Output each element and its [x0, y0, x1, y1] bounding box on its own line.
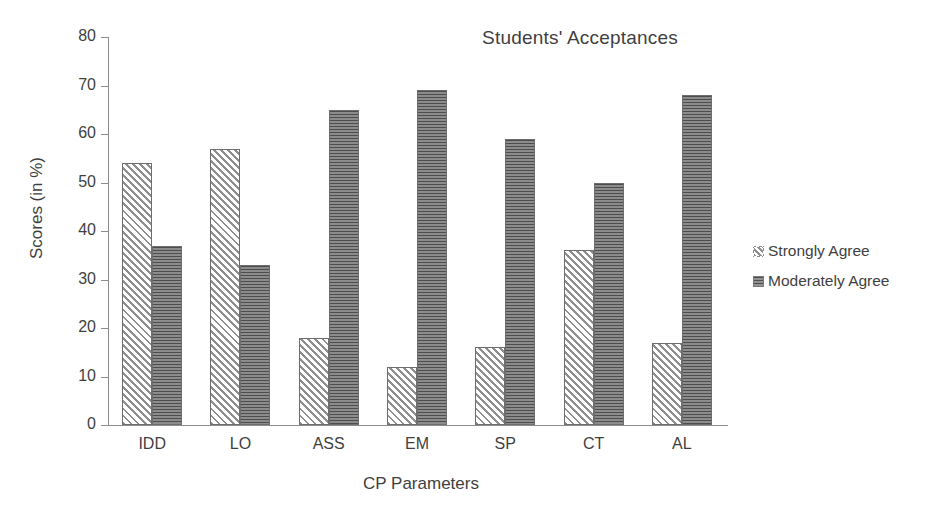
bar-strongly-agree[interactable]	[652, 343, 682, 425]
bar-moderately-agree[interactable]	[329, 110, 359, 425]
bar-group	[638, 37, 726, 425]
y-axis-tick: 70	[101, 86, 108, 87]
bar-moderately-agree[interactable]	[417, 90, 447, 425]
bar-group	[108, 37, 196, 425]
y-axis-tick-label: 0	[56, 415, 96, 433]
bar-strongly-agree[interactable]	[387, 367, 417, 425]
bar-strongly-agree[interactable]	[564, 250, 594, 425]
x-axis-tick-label: AL	[632, 435, 732, 453]
y-axis-tick-label: 60	[56, 124, 96, 142]
y-axis-label: Scores (in %)	[27, 128, 47, 288]
bar-strongly-agree[interactable]	[122, 163, 152, 425]
y-axis-tick: 40	[101, 231, 108, 232]
x-axis-tick-label: ASS	[279, 435, 379, 453]
plot-area: 01020304050607080 IDDLOASSEMSPCTAL	[108, 37, 726, 425]
bar-chart-figure: Students' Acceptances Scores (in %) 0102…	[0, 0, 946, 513]
x-axis-tick-label: LO	[190, 435, 290, 453]
y-axis-tick-label: 50	[56, 173, 96, 191]
y-axis-tick: 0	[101, 425, 108, 426]
y-axis-tick-label: 10	[56, 367, 96, 385]
chart-legend: Strongly Agree Moderately Agree	[753, 236, 943, 296]
legend-swatch-strongly-agree-icon	[753, 246, 764, 257]
bar-group	[373, 37, 461, 425]
bar-moderately-agree[interactable]	[505, 139, 535, 425]
bar-group	[196, 37, 284, 425]
bar-group	[285, 37, 373, 425]
y-axis-tick-label: 40	[56, 221, 96, 239]
x-axis-tick-label: CT	[544, 435, 644, 453]
y-axis-tick-label: 70	[56, 76, 96, 94]
bar-strongly-agree[interactable]	[475, 347, 505, 425]
x-axis-label: CP Parameters	[118, 474, 724, 494]
bar-moderately-agree[interactable]	[152, 246, 182, 425]
legend-swatch-moderately-agree-icon	[753, 276, 764, 287]
y-axis-tick: 50	[101, 183, 108, 184]
legend-label-strongly-agree: Strongly Agree	[768, 242, 870, 260]
bar-strongly-agree[interactable]	[210, 149, 240, 425]
legend-item-strongly-agree: Strongly Agree	[753, 236, 943, 266]
legend-item-moderately-agree: Moderately Agree	[753, 266, 943, 296]
y-axis-tick: 20	[101, 328, 108, 329]
bar-moderately-agree[interactable]	[594, 183, 624, 426]
x-axis-tick-label: EM	[367, 435, 467, 453]
y-axis-tick-label: 80	[56, 27, 96, 45]
x-axis-line	[108, 425, 728, 426]
y-axis-tick: 60	[101, 134, 108, 135]
x-axis-tick-label: SP	[455, 435, 555, 453]
bar-group	[461, 37, 549, 425]
y-axis-tick-label: 20	[56, 318, 96, 336]
bar-moderately-agree[interactable]	[240, 265, 270, 425]
y-axis-tick: 80	[101, 37, 108, 38]
x-axis-tick-label: IDD	[102, 435, 202, 453]
y-axis-tick: 30	[101, 280, 108, 281]
y-axis-tick-label: 30	[56, 270, 96, 288]
legend-label-moderately-agree: Moderately Agree	[768, 272, 890, 290]
bar-group	[549, 37, 637, 425]
bar-moderately-agree[interactable]	[682, 95, 712, 425]
y-axis-tick: 10	[101, 377, 108, 378]
bar-strongly-agree[interactable]	[299, 338, 329, 425]
